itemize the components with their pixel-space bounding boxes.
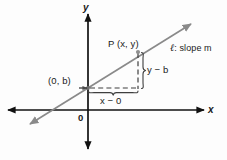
y-axis-label: y	[83, 3, 89, 13]
point-p-label: P (x, y)	[108, 39, 139, 49]
origin-label: 0	[78, 113, 83, 123]
run-label: x − 0	[100, 96, 121, 106]
rise-brace	[142, 53, 146, 89]
coordinate-geometry-figure: y x 0 P (x, y) (0, b) y − b x − 0 ℓ: slo…	[0, 0, 227, 160]
x-axis-label: x	[208, 105, 214, 115]
line-l-caption: ℓ: slope m	[170, 43, 212, 53]
y-intercept-label: (0, b)	[48, 76, 71, 86]
line-l-caption-text: : slope m	[174, 43, 211, 53]
point-p-dot	[136, 50, 140, 54]
rise-label: y − b	[147, 65, 168, 75]
figure-canvas	[0, 0, 227, 160]
